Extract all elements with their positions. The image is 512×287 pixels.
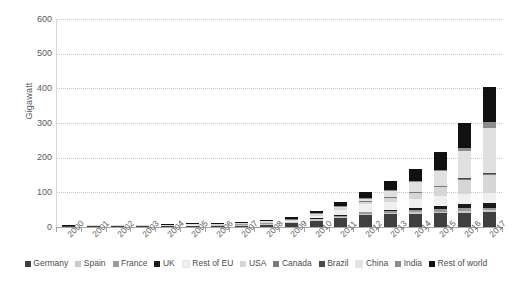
bar-segment-rest-of-world bbox=[434, 152, 447, 169]
y-tick-label: 100 bbox=[8, 188, 52, 197]
bar-segment-china bbox=[483, 128, 496, 173]
y-tick-label: 400 bbox=[8, 84, 52, 93]
y-tick-label: 300 bbox=[8, 119, 52, 128]
legend-swatch-icon bbox=[319, 261, 325, 267]
legend-item-germany[interactable]: Germany bbox=[25, 259, 68, 268]
legend-item-usa[interactable]: USA bbox=[240, 259, 266, 268]
legend-label: Germany bbox=[33, 259, 68, 268]
legend-label: Rest of EU bbox=[192, 259, 233, 268]
legend-swatch-icon bbox=[182, 260, 190, 268]
y-tick-label: 200 bbox=[8, 153, 52, 162]
bar-2016 bbox=[458, 123, 471, 227]
legend-swatch-icon bbox=[429, 261, 435, 267]
bar-segment-rest-of-world bbox=[384, 181, 397, 190]
x-tick bbox=[56, 227, 57, 232]
legend-label: Rest of world bbox=[438, 259, 488, 268]
bar-2013 bbox=[384, 181, 397, 227]
legend-swatch-icon bbox=[154, 261, 160, 267]
legend-item-china[interactable]: China bbox=[355, 259, 388, 268]
bar-segment-rest-of-eu bbox=[359, 204, 372, 211]
legend-item-india[interactable]: India bbox=[395, 259, 422, 268]
legend-item-brazil[interactable]: Brazil bbox=[319, 259, 349, 268]
bar-segment-rest-of-world bbox=[458, 123, 471, 149]
legend-swatch-icon bbox=[75, 261, 81, 267]
bar-segment-rest-of-eu bbox=[458, 194, 471, 204]
legend-item-canada[interactable]: Canada bbox=[273, 259, 311, 268]
legend-label: USA bbox=[249, 259, 266, 268]
legend-label: Brazil bbox=[327, 259, 348, 268]
legend-label: Canada bbox=[282, 259, 312, 268]
bar-segment-china bbox=[434, 171, 447, 186]
bar-segment-rest-of-eu bbox=[483, 193, 496, 204]
y-tick-label: 500 bbox=[8, 49, 52, 58]
bar-segment-rest-of-eu bbox=[384, 202, 397, 210]
bar-segment-china bbox=[458, 151, 471, 178]
legend-label: Spain bbox=[84, 259, 106, 268]
legend-label: China bbox=[366, 259, 388, 268]
legend-item-rest-of-eu[interactable]: Rest of EU bbox=[182, 259, 234, 268]
legend-item-france[interactable]: France bbox=[113, 259, 148, 268]
chart-legend: GermanySpainFranceUKRest of EUUSACanadaB… bbox=[0, 259, 512, 268]
bar-2012 bbox=[359, 192, 372, 227]
legend-item-uk[interactable]: UK bbox=[154, 259, 174, 268]
bar-segment-rest-of-world bbox=[483, 87, 496, 121]
bar-segment-usa bbox=[483, 175, 496, 193]
bar-segment-rest-of-world bbox=[409, 169, 422, 181]
legend-label: India bbox=[404, 259, 422, 268]
legend-swatch-icon bbox=[355, 260, 363, 268]
bar-segment-rest-of-eu bbox=[434, 196, 447, 206]
legend-label: UK bbox=[163, 259, 175, 268]
legend-swatch-icon bbox=[273, 261, 279, 267]
legend-swatch-icon bbox=[395, 261, 401, 267]
y-tick-label: 0 bbox=[8, 223, 52, 232]
y-tick-label: 600 bbox=[8, 15, 52, 24]
legend-swatch-icon bbox=[113, 261, 119, 267]
bar-segment-rest-of-eu bbox=[409, 199, 422, 208]
bars-layer bbox=[56, 19, 502, 227]
legend-swatch-icon bbox=[240, 261, 246, 267]
stacked-bar-chart: Gigawatt 0100200300400500600 20002001200… bbox=[0, 0, 512, 287]
bar-segment-usa bbox=[434, 187, 447, 196]
legend-item-spain[interactable]: Spain bbox=[75, 259, 105, 268]
bar-segment-usa bbox=[458, 180, 471, 194]
legend-item-rest-of-world[interactable]: Rest of world bbox=[429, 259, 487, 268]
legend-label: France bbox=[121, 259, 147, 268]
bar-2014 bbox=[409, 169, 422, 227]
bar-segment-china bbox=[409, 182, 422, 192]
bar-2017 bbox=[483, 87, 496, 227]
bar-2015 bbox=[434, 152, 447, 227]
legend-swatch-icon bbox=[25, 261, 31, 267]
